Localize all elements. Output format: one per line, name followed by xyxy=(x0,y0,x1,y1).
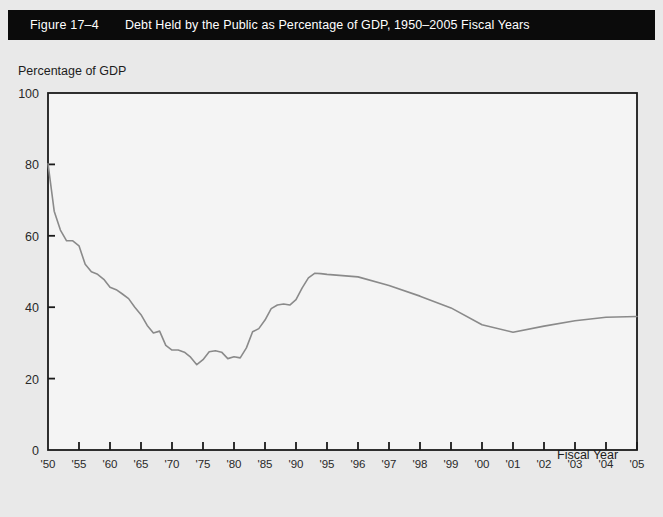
line-chart-plot: 020406080100 '50'55'60'65'70'75'80'85'90… xyxy=(0,40,663,517)
figure-title-label: Debt Held by the Public as Percentage of… xyxy=(125,18,530,32)
svg-text:100: 100 xyxy=(18,87,39,101)
svg-text:'80: '80 xyxy=(227,458,242,470)
svg-text:'96: '96 xyxy=(351,458,366,470)
svg-text:'50: '50 xyxy=(41,458,56,470)
plot-background xyxy=(48,93,637,450)
figure-title-bar: Figure 17–4 Debt Held by the Public as P… xyxy=(8,10,655,40)
svg-text:'85: '85 xyxy=(258,458,273,470)
svg-text:'98: '98 xyxy=(413,458,428,470)
svg-text:60: 60 xyxy=(25,230,39,244)
svg-text:'01: '01 xyxy=(506,458,521,470)
svg-text:40: 40 xyxy=(25,301,39,315)
svg-text:'65: '65 xyxy=(134,458,149,470)
svg-text:'70: '70 xyxy=(165,458,180,470)
svg-text:'75: '75 xyxy=(196,458,211,470)
svg-text:'60: '60 xyxy=(103,458,118,470)
svg-text:'99: '99 xyxy=(444,458,459,470)
svg-text:'03: '03 xyxy=(568,458,583,470)
svg-text:'00: '00 xyxy=(475,458,490,470)
svg-text:'05: '05 xyxy=(630,458,645,470)
svg-text:20: 20 xyxy=(25,373,39,387)
svg-text:'95: '95 xyxy=(320,458,335,470)
svg-text:80: 80 xyxy=(25,158,39,172)
svg-text:'90: '90 xyxy=(289,458,304,470)
chart-container: Percentage of GDP Fiscal Year 0204060801… xyxy=(0,40,663,517)
svg-text:'02: '02 xyxy=(537,458,552,470)
svg-text:'97: '97 xyxy=(382,458,397,470)
figure-number-label: Figure 17–4 xyxy=(30,18,99,32)
svg-text:0: 0 xyxy=(32,444,39,458)
svg-text:'04: '04 xyxy=(599,458,615,470)
figure-page: Figure 17–4 Debt Held by the Public as P… xyxy=(0,0,663,517)
svg-text:'55: '55 xyxy=(72,458,87,470)
